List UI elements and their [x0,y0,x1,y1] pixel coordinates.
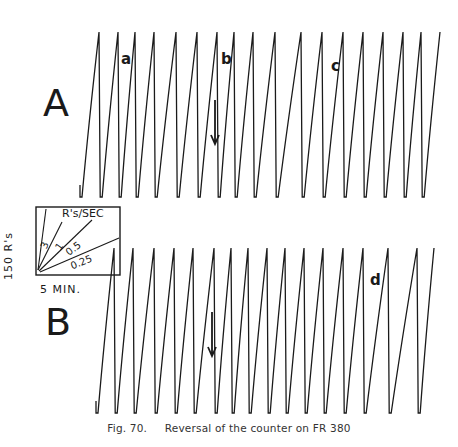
reversal-arrows [208,100,219,356]
rate-label-3: 3 [38,240,51,250]
legend-y-scale: 150 R's [2,215,22,297]
caption-text: Reversal of the counter on FR 380 [165,422,351,434]
cumulative-record-A [80,32,440,197]
mark-b: b [221,52,232,67]
cumulative-record-B [96,248,434,413]
legend-title: R's/SEC [62,207,104,220]
caption-number: Fig. 70. [107,422,147,434]
legend-x-scale: 5 MIN. [40,283,81,296]
mark-d: d [370,273,381,288]
mark-c: c [331,59,340,74]
mark-a: a [121,52,131,67]
figure-caption: Fig. 70. Reversal of the counter on FR 3… [0,422,458,434]
panel-label-A: A [43,84,69,122]
panel-label-B: B [45,303,71,341]
